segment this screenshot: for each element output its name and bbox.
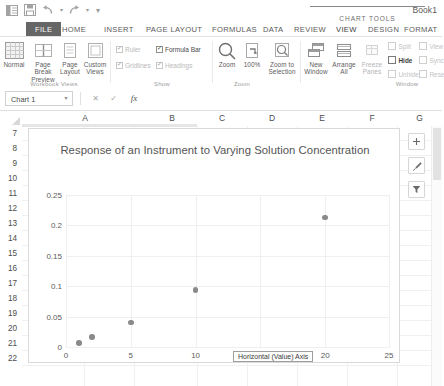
row-header-10[interactable]: 10: [0, 171, 20, 186]
row-header-13[interactable]: 13: [0, 216, 20, 231]
gridline-y-0.15: [66, 256, 390, 257]
new-window-button[interactable]: New Window: [302, 40, 330, 76]
zoom-button[interactable]: Zoom: [214, 40, 240, 68]
tab-format[interactable]: FORMAT: [404, 22, 438, 37]
column-header-g[interactable]: G: [397, 111, 442, 126]
tab-design[interactable]: DESIGN: [368, 22, 399, 37]
column-header-e[interactable]: E: [297, 111, 347, 126]
row-header-8[interactable]: 8: [0, 141, 20, 156]
checkbox-headings[interactable]: ✓ Headings: [156, 62, 192, 69]
checkbox-gridlines[interactable]: ✓ Gridlines: [116, 62, 151, 69]
view-side-by-side-button[interactable]: View: [419, 42, 443, 50]
formula-input[interactable]: [146, 92, 438, 106]
column-header-d[interactable]: D: [247, 111, 297, 126]
hide-label: Hide: [399, 57, 413, 64]
chart-filters-button[interactable]: [408, 181, 425, 198]
enter-icon[interactable]: ✓: [106, 91, 121, 106]
tab-view[interactable]: VIEW: [336, 22, 357, 37]
row-header-19[interactable]: 19: [0, 306, 20, 321]
split-button[interactable]: Split: [388, 42, 411, 50]
hide-button[interactable]: Hide: [388, 56, 412, 64]
chart-title[interactable]: Response of an Instrument to Varying Sol…: [47, 143, 383, 159]
arrange-all-button[interactable]: Arrange All: [330, 40, 358, 76]
row-header-22[interactable]: 22: [0, 351, 20, 366]
undo-icon[interactable]: [42, 4, 55, 17]
group-label-window: Window: [372, 81, 442, 87]
column-header-f[interactable]: F: [347, 111, 397, 126]
synchronous-scrolling-button[interactable]: Sync: [419, 56, 444, 64]
data-point[interactable]: [193, 287, 199, 293]
row-header-17[interactable]: 17: [0, 276, 20, 291]
checkbox-ruler[interactable]: ✓ Ruler: [116, 46, 141, 53]
row-header-11[interactable]: 11: [0, 186, 20, 201]
tab-formulas[interactable]: FORMULAS: [212, 22, 257, 37]
plus-icon: [412, 137, 421, 146]
tab-file[interactable]: FILE: [26, 22, 61, 37]
y-axis-tick-label: 0.05: [32, 312, 62, 321]
zoom-icon: [214, 40, 240, 61]
data-point[interactable]: [128, 320, 134, 326]
insert-function-icon[interactable]: fx: [126, 91, 142, 106]
chart-elements-button[interactable]: [408, 133, 425, 150]
undo-dropdown-caret-icon[interactable]: ▾: [60, 4, 63, 17]
redo-icon[interactable]: [68, 4, 81, 17]
group-divider-1: [110, 41, 111, 83]
group-label-workbook-views: Workbook Views: [0, 81, 108, 87]
chart-plot-area[interactable]: 0 0.05 0.1 0.15 0.2 0.25 0 5 10 15 20 25: [66, 195, 390, 348]
data-point[interactable]: [89, 334, 95, 340]
cancel-icon[interactable]: ✕: [88, 91, 103, 106]
tab-review[interactable]: REVIEW: [294, 22, 326, 37]
name-box-dropdown-icon[interactable]: ▾: [60, 91, 72, 106]
reset-window-position-button[interactable]: Rese: [419, 70, 444, 78]
hide-icon: [388, 56, 396, 64]
page-layout-label-2: Layout: [58, 68, 82, 75]
select-all-corner[interactable]: [0, 111, 22, 126]
view-side-by-side-icon: [419, 42, 427, 50]
row-header-column: 7 8 9 10 11 12 13 14 15 16 17 18 19 20 2…: [0, 126, 23, 386]
freeze-panes-button[interactable]: Freeze Panes: [358, 40, 386, 76]
normal-view-button[interactable]: Normal: [0, 40, 28, 68]
vertical-scrollbar[interactable]: [431, 126, 442, 386]
gridline-y-0.25: [66, 195, 390, 196]
row-header-21[interactable]: 21: [0, 336, 20, 351]
group-label-show: Show: [112, 81, 212, 87]
group-label-zoom: Zoom: [214, 81, 270, 87]
page-layout-button[interactable]: Page Layout: [58, 40, 82, 76]
save-icon[interactable]: [24, 4, 37, 17]
new-window-label-1: New: [302, 61, 330, 68]
zoom-100-button[interactable]: 100%: [240, 40, 264, 68]
zoom-to-selection-button[interactable]: Zoom to Selection: [264, 40, 300, 76]
chart-styles-button[interactable]: [408, 157, 425, 174]
column-header-c[interactable]: C: [197, 111, 247, 126]
row-header-9[interactable]: 9: [0, 156, 20, 171]
unhide-button[interactable]: Unhide: [388, 70, 419, 78]
redo-dropdown-caret-icon[interactable]: ▾: [86, 4, 89, 17]
row-header-20[interactable]: 20: [0, 321, 20, 336]
x-axis-tick-label: 10: [179, 351, 213, 360]
tab-home[interactable]: HOME: [62, 22, 86, 37]
row-header-7[interactable]: 7: [0, 126, 20, 141]
x-axis-tick-label: 0: [49, 351, 83, 360]
row-header-12[interactable]: 12: [0, 201, 20, 216]
row-header-18[interactable]: 18: [0, 291, 20, 306]
row-header-15[interactable]: 15: [0, 246, 20, 261]
page-break-preview-button[interactable]: Page Break Preview: [28, 40, 58, 83]
chart-object[interactable]: Response of an Instrument to Varying Sol…: [28, 128, 400, 363]
custom-views-button[interactable]: Custom Views: [82, 40, 108, 76]
synchronous-scrolling-label: Sync: [430, 57, 444, 64]
row-header-16[interactable]: 16: [0, 261, 20, 276]
custom-views-label-2: Views: [82, 68, 108, 75]
checkbox-formula-bar[interactable]: ✓ Formula Bar: [156, 46, 201, 53]
checkbox-ruler-label: Ruler: [125, 46, 141, 53]
data-point[interactable]: [76, 340, 82, 346]
tab-page-layout[interactable]: PAGE LAYOUT: [146, 22, 202, 37]
tab-insert[interactable]: INSERT: [104, 22, 134, 37]
row-header-14[interactable]: 14: [0, 231, 20, 246]
y-axis-tick-label: 0.2: [32, 221, 62, 230]
vertical-scrollbar-thumb[interactable]: [433, 128, 441, 180]
tab-data[interactable]: DATA: [263, 22, 284, 37]
custom-views-label-1: Custom: [82, 61, 108, 68]
customize-qat-icon[interactable]: ▾: [96, 6, 100, 15]
ribbon-group-show: ✓ Ruler ✓ Formula Bar ✓ Gridlines ✓ Head…: [112, 37, 212, 88]
